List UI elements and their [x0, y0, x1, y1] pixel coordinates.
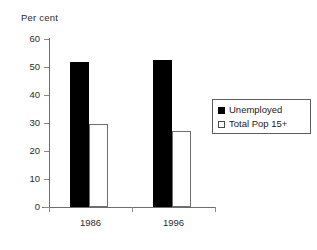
y-axis-title: Per cent [21, 12, 58, 23]
legend-item-total-pop-15plus: Total Pop 15+ [218, 117, 306, 131]
y-axis-tick-label: 40 [14, 90, 40, 100]
bar-chart: Per cent 0102030405060 19861996 Unemploy… [0, 0, 317, 250]
x-axis-tick [132, 207, 133, 212]
y-axis-tick-label: 60 [14, 34, 40, 44]
y-axis-tick [44, 39, 49, 40]
legend-item-unemployed: Unemployed [218, 103, 306, 117]
x-axis-tick [215, 207, 216, 212]
y-axis-line [49, 38, 50, 208]
y-axis-tick-label: 50 [14, 62, 40, 72]
y-axis-tick-label: 20 [14, 146, 40, 156]
y-axis-tick-label: 10 [14, 174, 40, 184]
y-axis-tick [44, 123, 49, 124]
y-axis-tick-label: 0 [14, 202, 40, 212]
y-axis-tick [44, 95, 49, 96]
y-axis-tick [44, 179, 49, 180]
chart-legend: Unemployed Total Pop 15+ [212, 99, 311, 134]
legend-item-label: Unemployed [229, 105, 282, 115]
x-axis-line [42, 207, 216, 208]
legend-swatch-icon [218, 107, 225, 114]
bar-total-pop-15-1996 [172, 131, 191, 207]
legend-item-label: Total Pop 15+ [229, 119, 287, 129]
bar-total-pop-15-1986 [89, 124, 108, 207]
x-axis-tick [49, 207, 50, 212]
y-axis-tick [44, 67, 49, 68]
x-axis-tick-label: 1986 [61, 218, 121, 228]
x-axis-tick-label: 1996 [144, 218, 204, 228]
legend-swatch-icon [218, 121, 225, 128]
bar-unemployed-1996 [153, 60, 172, 207]
bar-unemployed-1986 [70, 62, 89, 207]
y-axis-tick [44, 151, 49, 152]
y-axis-tick-label: 30 [14, 118, 40, 128]
